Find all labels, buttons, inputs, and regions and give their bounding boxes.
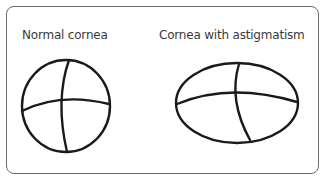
cornea-diagrams [0,0,327,182]
normal-cornea-icon [22,60,110,152]
astigmatic-cornea-icon [176,63,298,143]
